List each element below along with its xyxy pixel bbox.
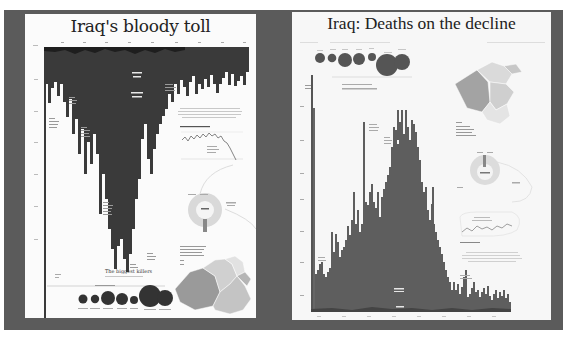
right-line-inset xyxy=(460,212,520,243)
left-infographic: Iraq's bloody toll xyxy=(25,14,256,318)
right-map xyxy=(455,62,522,124)
right-graphics xyxy=(292,12,551,320)
left-bubbles xyxy=(25,14,256,318)
right-bubbles xyxy=(315,53,410,76)
right-donut xyxy=(457,152,532,202)
right-infographic: Iraq: Deaths on the decline xyxy=(292,12,551,320)
right-bar-chart xyxy=(315,110,511,312)
